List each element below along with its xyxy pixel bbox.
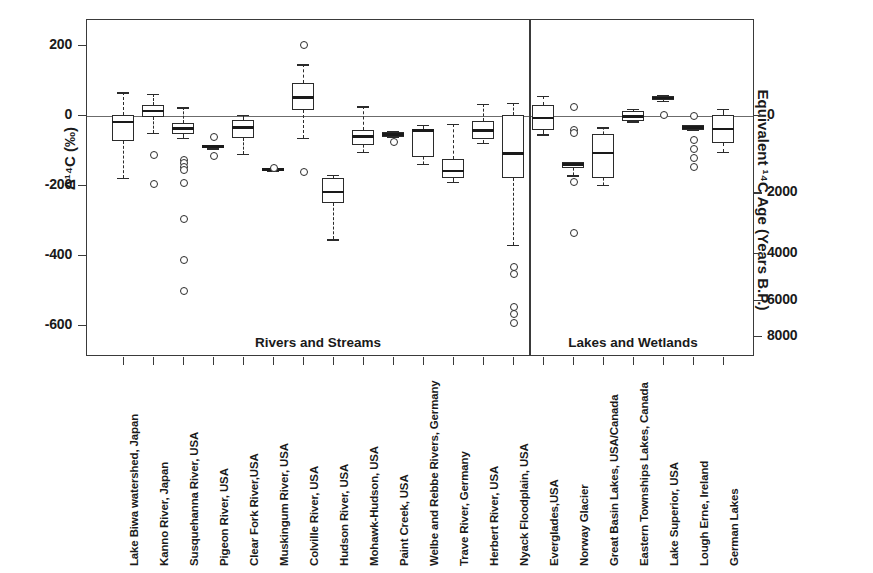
box-plot — [0, 0, 873, 573]
median-line — [712, 128, 734, 131]
whisker-upper-cap — [717, 109, 728, 110]
whisker-lower-stem — [723, 143, 724, 152]
whisker-lower-cap — [717, 152, 728, 153]
figure-root: Δ¹⁴C (‰) Equivalent ¹⁴C Age (Years B.P.)… — [0, 0, 873, 573]
